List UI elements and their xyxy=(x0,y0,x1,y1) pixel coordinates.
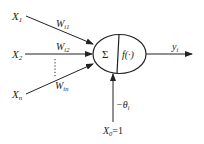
neuron-diagram: X1 Wi1 X2 Wi2 Xn Win Σ f(·) yi −θi X0=1 xyxy=(0,0,204,144)
svg-text:Wi1: Wi1 xyxy=(56,18,69,30)
neuron-node: Σ f(·) xyxy=(93,35,146,74)
bias-input: −θi X0=1 xyxy=(102,74,130,137)
summation-symbol: Σ xyxy=(102,48,108,60)
svg-text:X0=1: X0=1 xyxy=(102,125,123,137)
svg-text:Xn: Xn xyxy=(11,88,23,102)
neuron-divider xyxy=(117,35,119,74)
svg-text:Wi2: Wi2 xyxy=(56,41,70,53)
input-x2: X2 Wi2 xyxy=(11,41,92,62)
input-xn: Xn Win xyxy=(11,64,93,102)
svg-text:Win: Win xyxy=(55,80,68,92)
svg-text:yi: yi xyxy=(171,41,178,53)
svg-text:X1: X1 xyxy=(11,10,22,24)
svg-text:X2: X2 xyxy=(11,48,23,62)
output: yi xyxy=(146,41,192,54)
svg-text:−θi: −θi xyxy=(116,99,130,111)
activation-function: f(·) xyxy=(122,49,135,61)
input-x1: X1 Wi1 xyxy=(11,10,93,44)
